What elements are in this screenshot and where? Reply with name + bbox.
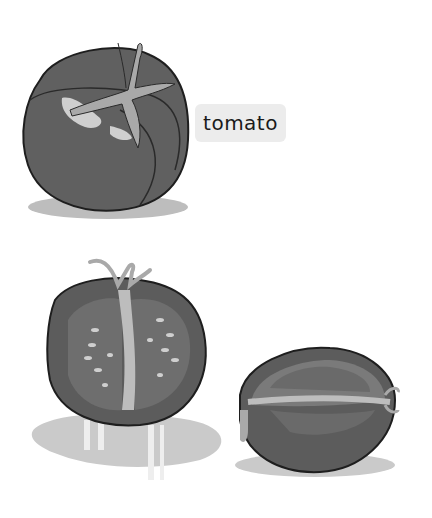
tomato-illustration-scene <box>0 0 432 518</box>
halved-tomato-side-illustration <box>235 348 398 477</box>
tomato-label: tomato <box>195 104 286 142</box>
